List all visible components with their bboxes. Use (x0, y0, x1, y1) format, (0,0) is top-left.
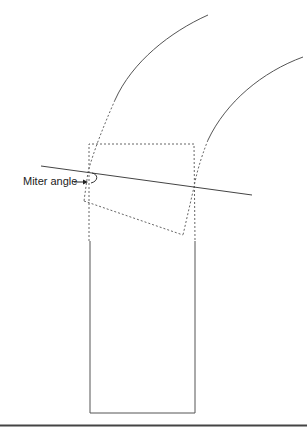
outer-bend-curve-dashed (84, 100, 115, 201)
inner-bend-curve-solid (208, 57, 303, 140)
miter-angle-label: Miter angle (23, 176, 77, 187)
outer-bend-curve-solid (115, 15, 208, 100)
projected-tube-outline (89, 144, 195, 241)
straight-tube-section (90, 241, 195, 413)
miter-diagram (0, 0, 307, 428)
bent-section-end-dashed (84, 201, 183, 235)
miter-angle-arc (91, 173, 97, 183)
